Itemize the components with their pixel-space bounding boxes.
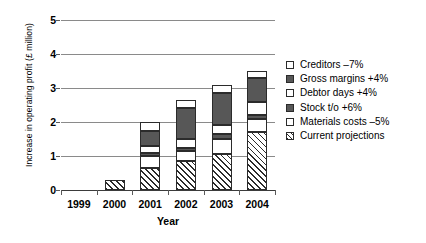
plot-background	[61, 20, 275, 190]
x-tick-mark	[204, 190, 205, 195]
gridline-1	[61, 156, 275, 157]
y-tick-label-1: 1	[34, 150, 56, 162]
bar-segment	[105, 180, 125, 190]
legend-item-label: Materials costs –5%	[300, 117, 389, 127]
legend-swatch-icon	[286, 104, 294, 112]
bar-segment	[176, 100, 196, 109]
bar-segment	[212, 125, 232, 134]
y-tick-label-4: 4	[34, 48, 56, 60]
gridline-2	[61, 122, 275, 123]
bar-segment	[140, 146, 160, 153]
x-tick-label-2000: 2000	[95, 198, 135, 210]
gridline-5	[61, 20, 275, 21]
legend-swatch-icon	[286, 89, 294, 97]
bar-segment	[247, 78, 267, 102]
bar-segment	[140, 131, 160, 146]
legend-item[interactable]: Stock t/o +6%	[286, 101, 424, 115]
stacked-bar-chart: Increase in operating profit (£ million)…	[0, 0, 426, 243]
legend-item-label: Gross margins +4%	[300, 74, 388, 84]
x-tick-label-2001: 2001	[130, 198, 170, 210]
bar-segment	[212, 134, 232, 139]
bar-segment	[140, 153, 160, 156]
legend-item[interactable]: Debtor days +4%	[286, 86, 424, 100]
legend-swatch-icon	[286, 132, 294, 140]
x-tick-label-2002: 2002	[166, 198, 206, 210]
x-tick-mark	[239, 190, 240, 195]
y-tick-mark-4	[56, 54, 60, 55]
legend-item-label: Current projections	[300, 131, 384, 141]
bar-segment	[212, 85, 232, 94]
bar-segment	[247, 102, 267, 116]
legend-swatch-icon	[286, 61, 294, 69]
x-tick-label-1999: 1999	[59, 198, 99, 210]
bar-segment	[247, 115, 267, 118]
x-tick-label-2004: 2004	[237, 198, 277, 210]
bar-segment	[140, 122, 160, 131]
legend-item[interactable]: Current projections	[286, 129, 424, 143]
bar-segment	[176, 139, 196, 148]
y-tick-mark-3	[56, 88, 60, 89]
bar-segment	[176, 151, 196, 161]
y-tick-label-2: 2	[34, 116, 56, 128]
legend-swatch-icon	[286, 118, 294, 126]
legend-item[interactable]: Materials costs –5%	[286, 115, 424, 129]
legend-item-label: Creditors –7%	[300, 60, 363, 70]
y-tick-mark-1	[56, 156, 60, 157]
bar-segment	[140, 168, 160, 190]
legend-swatch-icon	[286, 75, 294, 83]
bar-segment	[176, 148, 196, 151]
y-tick-label-0: 0	[34, 184, 56, 196]
y-axis-tick-labels: 012345	[30, 20, 56, 190]
x-tick-mark	[168, 190, 169, 195]
bar-segment	[140, 156, 160, 168]
gridline-3	[61, 88, 275, 89]
x-tick-mark	[275, 190, 276, 195]
x-tick-mark	[97, 190, 98, 195]
bar-segment	[247, 71, 267, 78]
y-tick-label-5: 5	[34, 14, 56, 26]
y-tick-label-3: 3	[34, 82, 56, 94]
bar-segment	[176, 161, 196, 190]
y-tick-mark-0	[56, 190, 60, 191]
bar-segment	[247, 119, 267, 133]
legend: Creditors –7%Gross margins +4%Debtor day…	[286, 58, 424, 143]
legend-item[interactable]: Gross margins +4%	[286, 72, 424, 86]
bar-segment	[176, 108, 196, 139]
gridline-4	[61, 54, 275, 55]
bar-segment	[212, 154, 232, 190]
bar-segment	[212, 93, 232, 125]
x-tick-label-2003: 2003	[202, 198, 242, 210]
bar-segment	[212, 139, 232, 154]
legend-item-label: Debtor days +4%	[300, 88, 377, 98]
plot-area	[61, 20, 275, 190]
bar-segment	[247, 132, 267, 190]
x-axis-title: Year	[61, 215, 275, 227]
x-tick-mark	[132, 190, 133, 195]
y-tick-mark-2	[56, 122, 60, 123]
x-tick-mark	[61, 190, 62, 195]
legend-item-label: Stock t/o +6%	[300, 103, 362, 113]
legend-item[interactable]: Creditors –7%	[286, 58, 424, 72]
y-tick-mark-5	[56, 20, 60, 21]
